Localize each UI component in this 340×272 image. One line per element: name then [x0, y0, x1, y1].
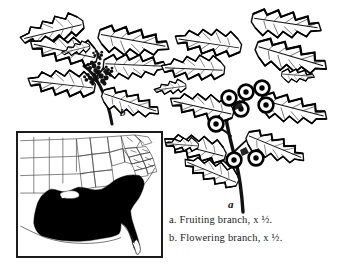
caption-line-a-text: a. Fruiting branch, x ½.: [169, 214, 272, 225]
berry: [249, 151, 264, 166]
caption-line-a: a. Fruiting branch, x ½.: [169, 214, 337, 225]
figure-label-b: b: [120, 106, 126, 118]
distribution-map-svg: [18, 133, 161, 256]
caption-line-b-text: b. Flowering branch, x ½.: [169, 232, 282, 243]
distribution-map-inset: [16, 131, 163, 258]
caption-block: a. Fruiting branch, x ½. b. Flowering br…: [169, 214, 337, 250]
caption-line-b: b. Flowering branch, x ½.: [169, 232, 337, 243]
berry: [209, 117, 224, 132]
figure-label-a: a: [228, 198, 234, 210]
berry: [227, 153, 242, 168]
berry: [255, 81, 270, 96]
berry: [259, 98, 274, 113]
berry: [239, 85, 254, 100]
berry: [222, 91, 237, 106]
